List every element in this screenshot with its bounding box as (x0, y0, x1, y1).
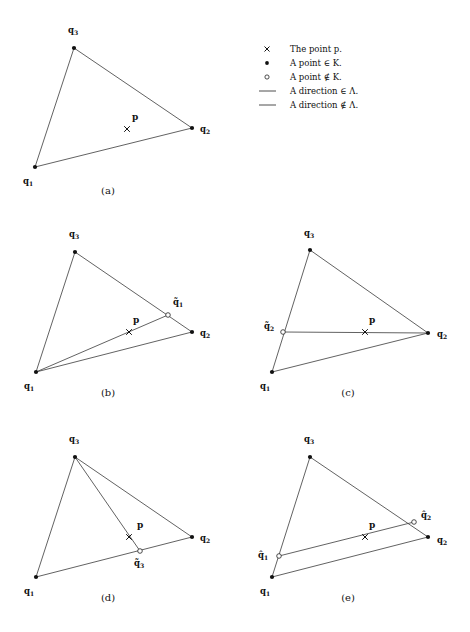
label-q1: q1 (24, 381, 34, 392)
label-p: p (137, 520, 143, 530)
label-p: p (369, 315, 375, 325)
point-q2 (426, 535, 430, 539)
legend-cross-marker (265, 47, 270, 52)
label-q2: q2 (200, 328, 210, 339)
label-q1: q1 (260, 381, 270, 392)
legend-label-3: A direction ∈ Λ. (289, 86, 358, 96)
panel-e: q3 q2 q1 q̂1 q̂2 p (e) (258, 434, 447, 603)
point-p-marker (362, 329, 368, 335)
edge-q1-q3 (36, 457, 75, 577)
label-q3: q3 (304, 434, 314, 445)
legend-hollow-dot-marker (265, 75, 269, 79)
edge-q2-q1 (36, 537, 192, 577)
point-q2 (190, 330, 194, 334)
edge-q1-q3 (272, 457, 310, 577)
point-q1 (33, 165, 37, 169)
label-q3: q3 (69, 434, 79, 445)
figure-container: q3 q2 q1 p (a) The point p. A point ∈ K.… (0, 0, 470, 632)
label-q2: q2 (437, 535, 447, 546)
label-q1: q1 (24, 586, 34, 597)
point-q3 (308, 248, 312, 252)
label-q2: q2 (200, 533, 210, 544)
label-p: p (132, 112, 138, 122)
point-q1-tilde (166, 313, 171, 318)
label-q3: q3 (68, 25, 78, 36)
ray-q1hat-to-q2hat (279, 522, 414, 556)
point-q2-hat (412, 520, 417, 525)
label-q3-tilde: q̃3 (134, 558, 144, 569)
label-q1: q1 (23, 176, 33, 187)
point-q1 (34, 575, 38, 579)
legend-label-2: A point ∉ K. (289, 72, 342, 82)
panel-b: q3 q2 q1 q̃1 p (b) (24, 229, 210, 398)
caption-a: (a) (101, 185, 115, 196)
label-q2-hat: q̂2 (421, 510, 431, 521)
point-q3 (72, 46, 76, 50)
label-q2-tilde: q̃2 (264, 321, 274, 332)
label-p: p (369, 520, 375, 530)
point-q1 (270, 370, 274, 374)
point-q2-tilde (281, 330, 286, 335)
point-p-marker (124, 126, 130, 132)
legend-filled-dot-marker (265, 61, 269, 65)
edge-q1-q3 (35, 48, 74, 167)
label-q1: q1 (260, 586, 270, 597)
point-q2 (426, 331, 430, 335)
label-p: p (133, 315, 139, 325)
legend: The point p. A point ∈ K. A point ∉ K. A… (259, 44, 358, 110)
point-q1-hat (277, 554, 282, 559)
label-q3: q3 (304, 228, 314, 239)
point-q3 (73, 250, 77, 254)
caption-e: (e) (341, 592, 355, 603)
point-q2 (190, 535, 194, 539)
legend-label-4: A direction ∉ Λ. (289, 100, 358, 110)
legend-label-1: A point ∈ K. (289, 58, 342, 68)
edge-q2-q1 (272, 333, 428, 372)
point-q1 (34, 370, 38, 374)
label-q2: q2 (200, 124, 210, 135)
panel-a: q3 q2 q1 p (a) (23, 25, 210, 196)
panel-d: q3 q2 q1 q̃3 p (d) (24, 434, 210, 603)
point-p-marker (126, 329, 132, 335)
ray-q3-to-q3tilde (75, 457, 140, 551)
edge-q2-q1 (272, 537, 428, 577)
figure-svg: q3 q2 q1 p (a) The point p. A point ∈ K.… (0, 0, 470, 632)
label-q3: q3 (69, 229, 79, 240)
caption-c: (c) (341, 387, 355, 398)
point-p-marker (362, 534, 368, 540)
label-q2: q2 (437, 329, 447, 340)
point-q1 (270, 575, 274, 579)
label-q1-hat: q̂1 (258, 550, 268, 561)
edge-q1-q3 (272, 250, 310, 372)
caption-d: (d) (101, 592, 115, 603)
point-q3-tilde (138, 549, 143, 554)
panel-c: q3 q2 q1 q̃2 p (c) (260, 228, 447, 398)
ray-q2-to-q2tilde (283, 332, 428, 333)
point-q3 (308, 455, 312, 459)
caption-b: (b) (101, 387, 115, 398)
edge-q3-q2 (75, 457, 192, 537)
edge-q2-q1 (35, 128, 192, 167)
label-q1-tilde: q̃1 (173, 297, 183, 308)
legend-label-0: The point p. (290, 44, 342, 54)
point-q3 (73, 455, 77, 459)
edge-q1-q3 (36, 252, 75, 372)
point-q2 (190, 126, 194, 130)
